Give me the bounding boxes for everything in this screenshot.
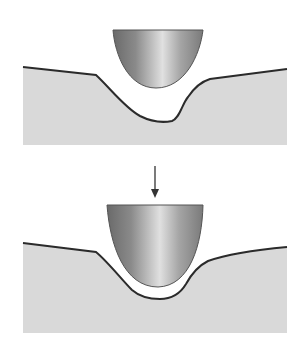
indentation-diagram bbox=[0, 0, 308, 349]
down-arrow-icon bbox=[151, 166, 159, 198]
panel-after bbox=[23, 205, 287, 333]
indenter-before bbox=[113, 30, 203, 88]
indenter-after bbox=[107, 205, 203, 287]
panel-before bbox=[23, 30, 287, 145]
